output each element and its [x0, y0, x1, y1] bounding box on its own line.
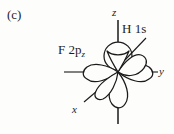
label-f-2pz-subscript: z [81, 49, 85, 59]
orbital-diagram-svg [0, 0, 174, 134]
label-f-2pz-main: F 2p [58, 42, 81, 57]
axis-label-z: z [112, 7, 116, 18]
panel-label: (c) [7, 8, 21, 21]
label-f-2pz: F 2pz [58, 43, 85, 59]
orbital-overlap-figure: (c) F 2pz H 1s z y x [0, 0, 174, 134]
axis-label-y: y [159, 66, 164, 77]
axis-label-x: x [72, 104, 77, 115]
label-h-1s: H 1s [122, 22, 146, 35]
